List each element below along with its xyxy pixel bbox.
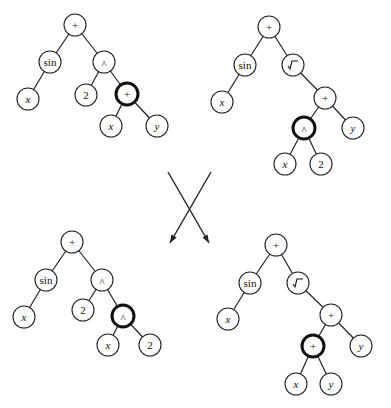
tree-parent-1: +sin^x2+xy: [17, 14, 168, 137]
node-var-y: y: [320, 373, 342, 395]
node-sin: sin: [39, 51, 61, 73]
node-var-x: x: [211, 91, 233, 113]
node-label: sin: [44, 56, 57, 68]
node-sqrt: [287, 272, 309, 294]
node-const-2: 2: [72, 299, 94, 321]
node-var-y: y: [342, 117, 364, 139]
node-sin: sin: [234, 54, 256, 76]
node-label: y: [328, 378, 334, 390]
node-var-y: y: [146, 115, 168, 137]
node-const-2: 2: [139, 334, 161, 356]
node-label: +: [328, 309, 334, 321]
node-label: 2: [80, 304, 86, 316]
node-label: 2: [318, 158, 324, 170]
node-label: x: [108, 120, 114, 132]
tree-offspring-1: +sin^x2^x2: [13, 231, 161, 356]
node-var-x: x: [217, 308, 239, 330]
crossover-node-power: ^: [112, 305, 134, 327]
node-var-x: x: [274, 153, 296, 175]
node-plus: +: [258, 16, 280, 38]
node-label: x: [293, 378, 299, 390]
node-label: +: [310, 340, 316, 352]
node-label: x: [219, 96, 225, 108]
node-plus: +: [64, 14, 86, 36]
node-var-x: x: [97, 334, 119, 356]
node-power: ^: [91, 269, 113, 291]
node-plus: +: [61, 231, 83, 253]
node-label: x: [21, 311, 27, 323]
node-sin: sin: [35, 269, 57, 291]
node-label: x: [105, 339, 111, 351]
node-label: sin: [239, 59, 252, 71]
node-var-x: x: [100, 115, 122, 137]
node-var-x: x: [13, 306, 35, 328]
node-label: +: [69, 236, 75, 248]
node-const-2: 2: [75, 84, 97, 106]
node-label: +: [322, 92, 328, 104]
node-label: ^: [99, 276, 105, 288]
arrow-right-icon: [168, 172, 209, 243]
node-plus: +: [265, 234, 287, 256]
node-var-y: y: [350, 335, 372, 357]
node-label: y: [358, 340, 364, 352]
node-power: ^: [93, 51, 115, 73]
node-var-x: x: [17, 88, 39, 110]
node-label: sin: [40, 274, 53, 286]
node-label: +: [266, 21, 272, 33]
node-label: sin: [244, 277, 257, 289]
node-const-2: 2: [310, 153, 332, 175]
node-sin: sin: [239, 272, 261, 294]
node-label: ^: [101, 58, 107, 70]
node-var-x: x: [285, 373, 307, 395]
node-plus: +: [314, 87, 336, 109]
node-label: ^: [301, 124, 307, 136]
node-label: 2: [147, 339, 153, 351]
tree-parent-2: +sinx+^yx2: [211, 16, 364, 175]
node-label: x: [282, 158, 288, 170]
crossover-node-plus: +: [116, 83, 138, 105]
node-label: +: [124, 88, 130, 100]
node-label: y: [350, 122, 356, 134]
node-label: y: [154, 120, 160, 132]
crossover-node-power: ^: [293, 117, 315, 139]
node-label: +: [72, 19, 78, 31]
tree-offspring-2: +sinx++yxy: [217, 234, 372, 395]
node-label: +: [273, 239, 279, 251]
crossover-arrows: [168, 172, 211, 243]
node-label: 2: [83, 89, 89, 101]
crossover-node-plus: +: [302, 335, 324, 357]
node-sqrt: [282, 54, 304, 76]
node-label: x: [25, 93, 31, 105]
node-label: x: [225, 313, 231, 325]
node-label: ^: [120, 312, 126, 324]
node-plus: +: [320, 304, 342, 326]
crossover-diagram: +sin^x2+xy+sinx+^yx2+sin^x2^x2+sinx++yxy: [0, 0, 391, 408]
arrow-left-icon: [170, 172, 211, 243]
